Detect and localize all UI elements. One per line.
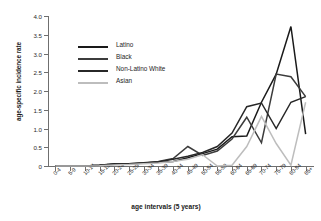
series-line-non-latino-white — [55, 97, 305, 166]
chart-figure: age-specific incidence rate age interval… — [0, 0, 321, 221]
plot-area — [0, 0, 321, 221]
legend-swatch — [78, 58, 108, 60]
legend-label: Black — [116, 53, 132, 60]
legend-label: Asian — [116, 77, 132, 84]
legend-swatch — [78, 70, 108, 72]
legend-label: Non-Latino White — [116, 65, 165, 72]
legend-swatch — [78, 46, 108, 48]
series-line-black — [55, 74, 305, 166]
legend-swatch — [78, 82, 108, 84]
legend-label: Latino — [116, 41, 133, 48]
